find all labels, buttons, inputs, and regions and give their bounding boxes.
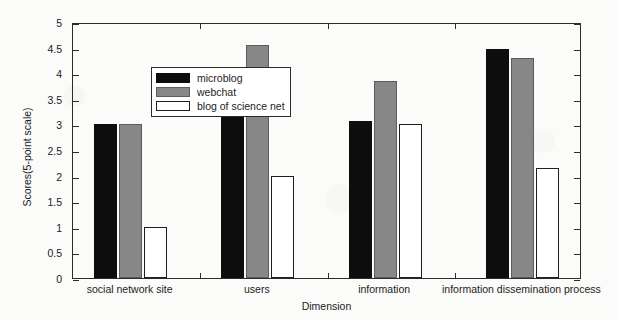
x-axis-title: Dimension [72,300,581,312]
y-tick-label-2: 2 [56,171,62,183]
x-axis-label-information: information [358,283,410,295]
chart-legend: microblog webchat blog of science net [151,67,291,117]
bar-microblog-information-dissemination-process [486,49,509,278]
legend-swatch-microblog [156,73,190,83]
legend-item-webchat: webchat [156,85,285,99]
bar-webchat-information-dissemination-process [511,58,534,278]
y-tick-right-0 [574,280,580,281]
legend-label-blog-of-science-net: blog of science net [197,100,285,112]
legend-swatch-webchat [156,87,190,97]
y-tick-label-0: 0 [56,273,62,285]
y-tick-label-2-5: 2.5 [47,145,62,157]
x-axis-tick-labels: social network siteusersinformationinfor… [72,283,581,299]
x-axis-label-social-network-site: social network site [87,283,173,295]
legend-item-microblog: microblog [156,71,285,85]
y-tick-label-1-5: 1.5 [47,196,62,208]
bar-blog-of-science-net-information-dissemination-process [536,168,559,278]
y-tick-label-3: 3 [56,119,62,131]
x-axis-label-users: users [244,283,270,295]
bar-webchat-social-network-site [119,124,142,278]
bar-webchat-information [374,81,397,278]
plot-area: microblog webchat blog of science net [72,23,581,279]
bar-blog-of-science-net-users [271,176,294,278]
bar-microblog-users [221,109,244,278]
bar-microblog-social-network-site [94,124,117,278]
bar-series-group [73,24,580,278]
y-tick-label-3-5: 3.5 [47,94,62,106]
legend-label-microblog: microblog [197,72,243,84]
bar-blog-of-science-net-social-network-site [144,227,167,278]
bar-blog-of-science-net-information [399,124,422,278]
legend-swatch-blog-of-science-net [156,101,190,111]
y-tick-0 [73,280,79,281]
bar-chart-figure: 00.511.522.533.544.55 Scores(5-point sca… [0,0,617,320]
legend-label-webchat: webchat [197,86,236,98]
y-axis-tick-labels: 00.511.522.533.544.55 [0,23,68,279]
bar-microblog-information [349,121,372,278]
y-tick-label-4-5: 4.5 [47,43,62,55]
legend-item-blog-of-science-net: blog of science net [156,99,285,113]
x-axis-label-information-dissemination-process: information dissemination process [442,283,601,295]
y-axis-title: Scores(5-point scale) [21,62,33,252]
y-tick-label-0-5: 0.5 [47,247,62,259]
y-tick-label-4: 4 [56,68,62,80]
y-tick-label-1: 1 [56,222,62,234]
y-tick-label-5: 5 [56,17,62,29]
